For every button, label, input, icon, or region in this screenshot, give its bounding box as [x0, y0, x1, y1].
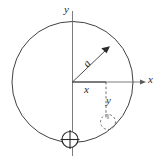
y-projection-label: y — [106, 95, 111, 106]
x-projection-label: x — [84, 84, 89, 95]
x-axis-label: x — [148, 74, 153, 85]
y-axis-label: y — [64, 4, 69, 15]
circle-coordinate-diagram: y x a x y — [0, 0, 164, 167]
diagram-canvas — [0, 0, 164, 167]
x-axis-arrowhead — [140, 80, 146, 85]
radius-arrow-icon — [101, 46, 110, 53]
